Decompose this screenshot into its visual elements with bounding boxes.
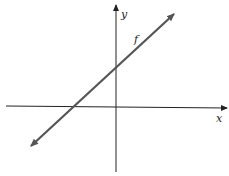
function-line-f <box>31 14 174 146</box>
function-label: f <box>133 33 140 46</box>
x-axis-label: x <box>216 112 223 125</box>
graph-canvas: y f x <box>0 0 229 176</box>
y-axis-label: y <box>120 8 128 21</box>
